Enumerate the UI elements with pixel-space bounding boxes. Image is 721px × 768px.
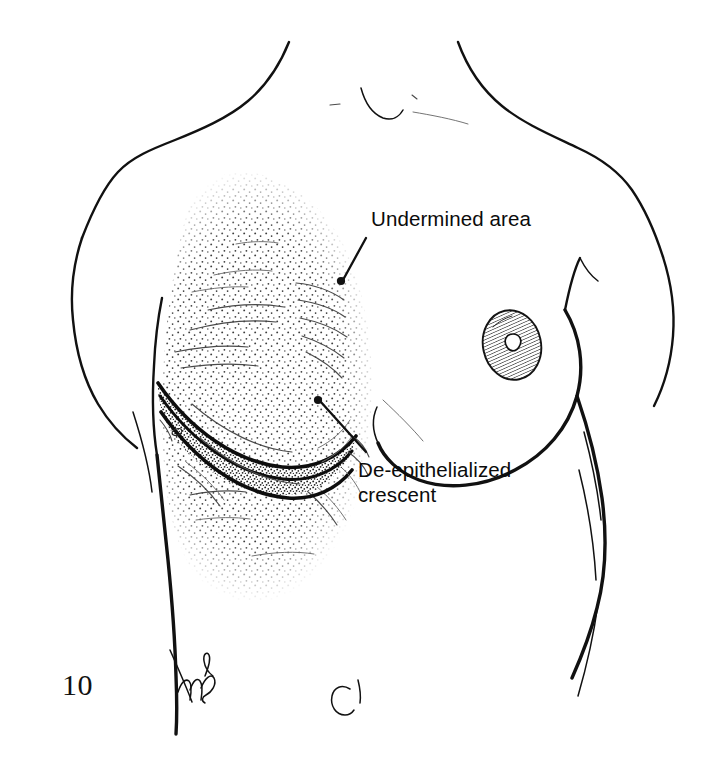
right-axillary-fold [153, 298, 162, 455]
label-de-epithelialized-crescent: De-epithelialized crescent [358, 457, 511, 507]
left-breast-medial-crease [383, 400, 423, 441]
panel-letter [332, 680, 361, 715]
right-flank-secondary-line [133, 412, 152, 492]
label-crescent-line2: crescent [358, 483, 436, 506]
right-arm-contour [72, 238, 137, 448]
leader-dot-undermined [337, 277, 345, 285]
left-flank-tertiary-line [579, 470, 596, 580]
clavicle-hint [413, 112, 468, 124]
undermined-area-region [162, 171, 372, 606]
figure-number: 10 [62, 668, 93, 702]
sternal-tick-right [412, 95, 417, 99]
left-arm-contour [654, 257, 674, 406]
leader-dot-crescent [314, 396, 322, 404]
left-breast-upper-lateral [565, 258, 580, 310]
sternal-notch [361, 88, 403, 119]
left-axilla-notch [580, 258, 598, 281]
surgical-illustration-figure: Undermined area De-epithelialized cresce… [0, 0, 721, 768]
areola [476, 305, 547, 386]
anatomy-line-art [0, 0, 721, 768]
nipple [505, 334, 521, 351]
label-undermined-area: Undermined area [371, 206, 531, 231]
left-flank-contour [572, 396, 605, 678]
label-crescent-line1: De-epithelialized [358, 458, 511, 481]
sternal-tick-left [330, 104, 340, 105]
left-breast-medial-fade [373, 407, 378, 443]
